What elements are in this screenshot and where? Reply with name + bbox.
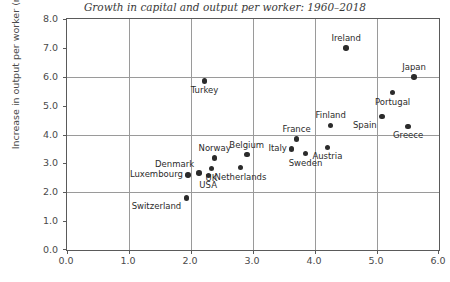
data-point-label: Denmark <box>155 160 194 169</box>
data-point-label: Spain <box>353 121 377 130</box>
data-point-label: Italy <box>268 144 286 153</box>
x-axis-tick-label: 6.0 <box>430 255 445 266</box>
y-axis-tick-label: 8.0 <box>26 13 58 24</box>
x-axis-tick <box>129 250 130 254</box>
data-point-label: Portugal <box>375 98 410 107</box>
x-axis-tick-label: 1.0 <box>120 255 135 266</box>
y-axis-tick-label: 0.0 <box>26 244 58 255</box>
data-point <box>185 172 191 178</box>
x-axis-tick <box>315 250 316 254</box>
x-axis-tick-label: 2.0 <box>182 255 197 266</box>
data-point <box>184 195 190 201</box>
data-point-label: Switzerland <box>132 202 182 211</box>
data-point-label: Luxembourg <box>130 170 183 179</box>
gridline-horizontal <box>67 192 439 193</box>
chart-figure: Growth in capital and output per worker:… <box>0 0 450 282</box>
x-axis-tick-label: 4.0 <box>306 255 321 266</box>
y-axis-tick-label: 5.0 <box>26 99 58 110</box>
x-axis-tick <box>438 250 439 254</box>
data-point <box>289 146 295 152</box>
y-axis-tick-label: 2.0 <box>26 186 58 197</box>
data-point-label: Belgium <box>229 141 264 150</box>
data-point <box>202 78 208 84</box>
data-point <box>294 136 300 142</box>
y-axis-tick <box>63 249 67 250</box>
gridline-horizontal <box>67 135 439 136</box>
data-point-label: Turkey <box>191 86 219 95</box>
data-point <box>328 123 334 129</box>
data-point <box>303 151 309 157</box>
x-axis-tick <box>253 250 254 254</box>
y-axis-tick <box>63 192 67 193</box>
y-axis-tick <box>63 19 67 20</box>
x-axis-tick <box>377 250 378 254</box>
data-point-label: Finland <box>316 111 346 120</box>
x-axis-tick-label: 5.0 <box>368 255 383 266</box>
y-axis-tick <box>63 221 67 222</box>
gridline-horizontal <box>67 77 439 78</box>
y-axis-tick <box>63 135 67 136</box>
y-axis-label: Increase in output per worker (multiple) <box>10 0 21 170</box>
data-point <box>390 90 396 96</box>
y-axis-tick-label: 7.0 <box>26 41 58 52</box>
x-axis-label-clipped <box>0 276 450 282</box>
data-point-label: Greece <box>393 131 423 140</box>
plot-area: IrelandTurkeyJapanPortugalSpainGreeceFin… <box>66 18 440 251</box>
y-axis-tick-label: 1.0 <box>26 215 58 226</box>
data-point <box>343 45 349 51</box>
y-axis-tick-label: 4.0 <box>26 128 58 139</box>
chart-title: Growth in capital and output per worker:… <box>0 1 450 13</box>
y-axis-tick <box>63 77 67 78</box>
x-axis-tick-label: 0.0 <box>58 255 73 266</box>
data-point-label: France <box>282 125 310 134</box>
x-axis-tick <box>191 250 192 254</box>
data-point <box>209 166 215 172</box>
data-point <box>405 124 411 130</box>
data-point-label: Norway <box>199 144 231 153</box>
y-axis-tick-label: 3.0 <box>26 157 58 168</box>
data-point <box>379 114 385 120</box>
data-point-label: USA <box>199 181 217 190</box>
y-axis-tick <box>63 48 67 49</box>
data-point <box>244 152 250 158</box>
data-point-label: Netherlands <box>215 173 267 182</box>
data-point <box>325 145 331 151</box>
y-axis-tick-label: 6.0 <box>26 70 58 81</box>
y-axis-tick <box>63 106 67 107</box>
x-axis-tick-label: 3.0 <box>244 255 259 266</box>
data-point <box>238 165 244 171</box>
y-axis-tick <box>63 163 67 164</box>
data-point <box>212 155 218 161</box>
data-point-label: Ireland <box>332 34 361 43</box>
x-axis-tick <box>67 250 68 254</box>
data-point <box>411 74 417 80</box>
data-point <box>196 170 202 176</box>
data-point-label: Sweden <box>289 159 323 168</box>
data-point-label: Japan <box>402 63 426 72</box>
